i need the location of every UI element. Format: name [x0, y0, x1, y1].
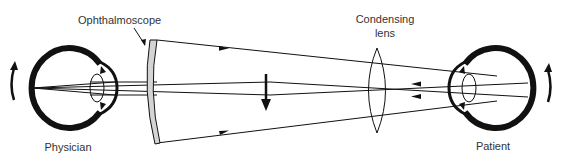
physician-rotation-arrow — [10, 61, 18, 100]
arrowhead-left-top — [411, 82, 421, 87]
condensing-lens-label-line1: Condensing — [356, 13, 415, 26]
patient-label: Patient — [476, 140, 510, 153]
patient-rotation-arrow — [544, 63, 552, 102]
aerial-image-arrow — [261, 74, 271, 111]
ophthalmoscope-pointer — [134, 28, 146, 46]
return-rays — [33, 82, 528, 100]
ophthalmoscopy-diagram: Ophthalmoscope Condensing lens Physician… — [0, 0, 567, 161]
ophthalmoscope-label: Ophthalmoscope — [78, 14, 161, 27]
patient-eye — [449, 48, 533, 128]
arrowhead-left-bottom — [411, 94, 421, 99]
illumination-beam — [157, 40, 497, 143]
condensing-lens-label-line2: lens — [375, 27, 395, 40]
physician-label: Physician — [44, 141, 91, 154]
